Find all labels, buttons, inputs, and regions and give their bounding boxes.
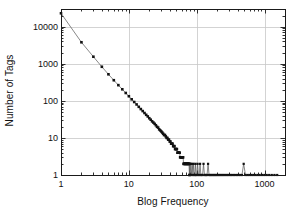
data-point-marker — [176, 148, 179, 151]
x-axis-label: Blog Frequency — [61, 196, 285, 207]
data-point-marker — [107, 73, 110, 76]
gridlines — [61, 9, 285, 175]
data-point-marker — [196, 163, 198, 165]
data-point-marker — [80, 41, 83, 44]
data-point-marker — [194, 163, 196, 165]
minor-tick-marks — [61, 9, 286, 175]
data-point-marker — [137, 106, 140, 109]
x-axis-tick-labels: 1101001000 — [0, 179, 296, 195]
data-point-marker — [117, 84, 120, 87]
data-point-marker — [92, 55, 95, 58]
data-point-marker — [135, 103, 138, 106]
data-series-line — [61, 13, 277, 175]
data-point-marker — [128, 95, 131, 98]
plot-frame — [61, 9, 285, 175]
y-tick-label: 100 — [20, 96, 58, 106]
y-tick-label: 10000 — [20, 22, 58, 32]
data-point-marker — [124, 92, 127, 95]
x-tick-label: 1 — [41, 179, 81, 189]
major-tick-marks — [61, 9, 285, 176]
data-point-marker — [243, 163, 245, 165]
data-point-marker — [171, 142, 174, 145]
data-point-marker — [130, 98, 133, 101]
y-tick-label: 1000 — [20, 59, 58, 69]
y-axis-label: Number of Tags — [5, 54, 16, 126]
x-tick-label: 100 — [177, 179, 217, 189]
y-axis-label-container: Number of Tags — [2, 0, 18, 180]
data-point-marker — [173, 145, 176, 148]
data-point-marker — [121, 88, 124, 91]
data-point-marker — [178, 151, 181, 154]
data-point-marker — [113, 79, 116, 82]
y-tick-label: 10 — [20, 133, 58, 143]
data-series-markers — [60, 12, 279, 176]
series-polyline — [61, 13, 277, 175]
chart-figure: Number of Tags Blog Frequency 1101001000… — [0, 0, 296, 219]
data-point-marker — [101, 65, 104, 68]
x-tick-label: 1000 — [245, 179, 285, 189]
data-point-marker — [202, 163, 204, 165]
data-point-marker — [207, 163, 209, 165]
data-point-marker — [193, 163, 195, 165]
x-tick-label: 10 — [109, 179, 149, 189]
data-point-marker — [182, 156, 185, 159]
data-point-marker — [199, 163, 201, 165]
data-point-marker — [133, 101, 136, 104]
